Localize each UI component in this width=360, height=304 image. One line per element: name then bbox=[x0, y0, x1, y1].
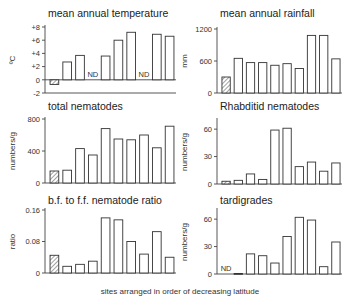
bar-site-7 bbox=[127, 242, 136, 274]
bar-site-8 bbox=[307, 220, 315, 274]
bar-site-8 bbox=[307, 35, 315, 93]
nd-label: ND bbox=[221, 264, 232, 273]
figure: mean annual temperatureºC+8+6+4+20-2NDND… bbox=[0, 0, 360, 304]
bar-site-8 bbox=[307, 162, 315, 184]
y-tick-label: 0 bbox=[36, 76, 40, 85]
panel-title: tardigrades bbox=[220, 194, 273, 206]
bar-site-4 bbox=[259, 63, 267, 93]
y-axis-label: ratio bbox=[8, 233, 17, 249]
bar-site-10 bbox=[332, 242, 340, 274]
bar-site-5 bbox=[101, 129, 110, 183]
bar-site-4 bbox=[88, 155, 97, 183]
y-axis-label: ºC bbox=[8, 55, 17, 64]
y-tick-label: 60 bbox=[204, 215, 212, 224]
y-axis-label: numbers/g bbox=[180, 223, 189, 261]
bar-site-2 bbox=[234, 274, 242, 275]
y-tick-label: 0 bbox=[36, 179, 40, 188]
y-tick-label: 800 bbox=[27, 115, 40, 124]
bar-site-5 bbox=[271, 65, 279, 93]
panel-rhabditid-nematodes: Rhabditid nematodesnumbers/g60300 bbox=[180, 100, 342, 189]
bar-site-6 bbox=[283, 128, 291, 184]
y-tick-label: 60 bbox=[204, 125, 212, 134]
y-tick-label: 0.08 bbox=[25, 237, 40, 246]
y-tick-label: 30 bbox=[204, 242, 212, 251]
bar-site-5 bbox=[101, 218, 110, 273]
panel-temperature: mean annual temperatureºC+8+6+4+20-2NDND bbox=[8, 7, 176, 98]
y-tick-label: 0 bbox=[36, 269, 40, 278]
y-tick-label: 600 bbox=[199, 57, 212, 66]
bar-site-9 bbox=[152, 34, 161, 80]
bar-site-10 bbox=[332, 163, 340, 184]
bar-site-10 bbox=[332, 59, 340, 93]
bar-site-7 bbox=[127, 32, 136, 80]
x-axis-label: sites arranged in order of decreasing la… bbox=[101, 287, 260, 296]
bar-site-3 bbox=[76, 149, 85, 183]
bar-site-3 bbox=[246, 63, 254, 93]
bar-site-4 bbox=[88, 261, 97, 273]
bar-site-9 bbox=[320, 35, 328, 93]
bar-site-8 bbox=[140, 254, 149, 273]
panel-title: mean annual rainfall bbox=[220, 7, 315, 19]
bar-site-9 bbox=[152, 148, 161, 183]
bar-site-2 bbox=[234, 180, 242, 184]
bar-site-2 bbox=[63, 170, 72, 183]
y-tick-label: +8 bbox=[31, 23, 40, 32]
panel-tardigrades: tardigradesnumbers/g60300ND bbox=[180, 194, 342, 279]
y-tick-label: 400 bbox=[27, 147, 40, 156]
bar-site-6 bbox=[283, 64, 291, 93]
y-tick-label: 1200 bbox=[195, 25, 212, 34]
bar-site-9 bbox=[320, 171, 328, 184]
y-tick-label: 0 bbox=[208, 270, 212, 279]
bar-site-5 bbox=[271, 263, 279, 274]
nd-label: ND bbox=[139, 70, 150, 79]
bar-site-10 bbox=[165, 257, 174, 273]
y-tick-label: +4 bbox=[31, 49, 40, 58]
y-tick-label: +6 bbox=[31, 36, 40, 45]
bar-site-5 bbox=[101, 56, 110, 80]
bar-site-7 bbox=[295, 68, 303, 93]
bar-site-1 bbox=[222, 181, 230, 184]
bar-site-7 bbox=[127, 140, 136, 183]
bar-site-10 bbox=[165, 36, 174, 80]
bar-site-8 bbox=[140, 135, 149, 183]
bar-site-10 bbox=[165, 126, 174, 183]
bar-site-6 bbox=[283, 237, 291, 274]
bar-site-3 bbox=[76, 264, 85, 273]
y-axis-label: numbers/g bbox=[180, 133, 189, 171]
bar-site-3 bbox=[76, 55, 85, 79]
panel-title: mean annual temperature bbox=[48, 7, 168, 19]
bar-site-1 bbox=[50, 80, 59, 85]
bar-site-7 bbox=[295, 167, 303, 184]
panel-rainfall: mean annual rainfallmm12006000 bbox=[180, 7, 342, 98]
y-tick-label: 0.16 bbox=[25, 206, 40, 215]
bar-site-2 bbox=[63, 266, 72, 273]
bar-site-5 bbox=[271, 130, 279, 184]
bar-site-6 bbox=[114, 220, 123, 273]
bar-site-1 bbox=[50, 171, 59, 183]
bar-site-6 bbox=[114, 139, 123, 183]
y-axis-label: mm bbox=[180, 54, 189, 68]
nd-label: ND bbox=[87, 70, 98, 79]
y-tick-label: 30 bbox=[204, 152, 212, 161]
y-tick-label: 0 bbox=[208, 89, 212, 98]
bar-site-2 bbox=[234, 58, 242, 93]
panel-title: Rhabditid nematodes bbox=[220, 100, 319, 112]
bar-site-6 bbox=[114, 40, 123, 80]
bar-site-4 bbox=[259, 256, 267, 274]
bar-site-3 bbox=[246, 174, 254, 184]
y-tick-label: +2 bbox=[31, 62, 40, 71]
bar-site-9 bbox=[152, 232, 161, 273]
bar-site-4 bbox=[259, 179, 267, 184]
panel-title: total nematodes bbox=[48, 100, 123, 112]
y-tick-label: -2 bbox=[33, 89, 40, 98]
y-axis-label: numbers/g bbox=[8, 132, 17, 170]
panel-total-nematodes: total nematodesnumbers/g8004000 bbox=[8, 100, 176, 188]
bar-site-1 bbox=[50, 255, 59, 273]
bar-site-2 bbox=[63, 62, 72, 80]
bar-site-7 bbox=[295, 217, 303, 274]
bar-site-1 bbox=[222, 77, 230, 93]
bar-site-9 bbox=[320, 267, 328, 274]
y-tick-label: 0 bbox=[208, 180, 212, 189]
bar-site-3 bbox=[246, 254, 254, 274]
panel-bf-ff-ratio: b.f. to f.f. nematode ratioratio0.160.08… bbox=[8, 194, 176, 278]
